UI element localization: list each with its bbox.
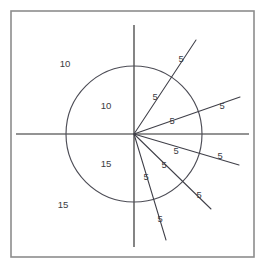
- region-value-label: 15: [58, 199, 69, 210]
- ray-value-label-inner: 5: [161, 159, 166, 170]
- ray-value-label-outer: 5: [157, 213, 162, 224]
- ray-value-label-inner: 5: [169, 115, 174, 126]
- ray-value-label-outer: 5: [219, 100, 224, 111]
- diagram-figure: 5555555555 10101515: [0, 0, 264, 267]
- diagram-canvas: 5555555555 10101515: [0, 0, 264, 267]
- ray-value-label-outer: 5: [196, 189, 201, 200]
- ray-value-label-inner: 5: [173, 145, 178, 156]
- region-value-label: 10: [60, 58, 71, 69]
- ray-value-label-outer: 5: [217, 150, 222, 161]
- ray-value-label-inner: 5: [152, 91, 157, 102]
- region-value-label: 15: [101, 158, 112, 169]
- ray-value-label-inner: 5: [143, 171, 148, 182]
- ray-value-label-outer: 5: [178, 53, 183, 64]
- region-value-label: 10: [101, 100, 112, 111]
